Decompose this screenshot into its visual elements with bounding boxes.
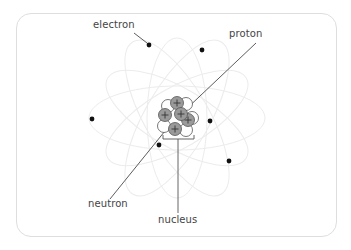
proton-particle bbox=[169, 123, 182, 136]
neutron-label: neutron bbox=[88, 198, 128, 209]
electron-dot bbox=[200, 48, 205, 53]
electron-dot bbox=[147, 43, 152, 48]
electron-dot bbox=[227, 159, 232, 164]
electron-label: electron bbox=[93, 19, 135, 30]
proton-particle bbox=[175, 108, 188, 121]
electrons bbox=[90, 43, 232, 164]
nucleus bbox=[158, 97, 199, 137]
nucleus-label: nucleus bbox=[158, 214, 197, 225]
electron-leader-line bbox=[134, 33, 147, 43]
proton-particle bbox=[159, 109, 172, 122]
electron-dot bbox=[157, 143, 162, 148]
atom-diagram bbox=[0, 0, 351, 250]
proton-label: proton bbox=[229, 28, 262, 39]
electron-dot bbox=[90, 117, 95, 122]
electron-dot bbox=[208, 119, 213, 124]
